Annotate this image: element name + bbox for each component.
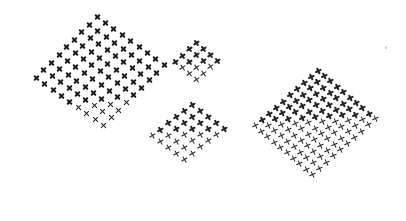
cross-mark-icon: [192, 50, 200, 58]
cross-mark-icon: [97, 68, 104, 75]
cross-mark-icon: [88, 48, 95, 55]
cross-mark-icon: [73, 77, 80, 84]
cross-mark-icon: [105, 74, 112, 81]
cross-mark-icon: [64, 58, 71, 65]
cross-mark-icon: [80, 56, 87, 63]
cross-mark-icon: [119, 32, 126, 39]
cross-mark-icon: [83, 110, 90, 117]
cross-mark-icon: [137, 71, 144, 78]
cross-mark-icon: [63, 44, 70, 51]
cross-mark-icon: [206, 62, 214, 70]
cross-mark-icon: [185, 44, 193, 52]
cross-mark-icon: [78, 29, 85, 36]
cross-mark-icon: [56, 65, 63, 72]
cross-mark-icon: [72, 64, 79, 71]
cross-mark-icon: [172, 125, 181, 134]
cross-mark-icon: [161, 62, 168, 69]
cross-mark-icon: [104, 47, 111, 54]
cross-mark-icon: [127, 38, 134, 45]
cross-mark-icon: [56, 52, 63, 59]
cross-mark-icon: [74, 91, 81, 98]
cross-mark-icon: [204, 136, 213, 145]
cross-mark-icon: [136, 57, 143, 64]
cross-mark-icon: [65, 71, 72, 78]
cross-mark-icon: [41, 80, 48, 87]
cross-mark-icon: [121, 72, 128, 79]
cross-mark-icon: [79, 42, 86, 49]
cross-mark-icon: [185, 69, 193, 77]
cross-mark-icon: [110, 26, 117, 33]
cross-mark-icon: [329, 151, 338, 160]
cross-mark-icon: [113, 66, 120, 73]
cross-mark-icon: [364, 120, 373, 129]
cross-mark-icon: [104, 60, 111, 67]
cross-mark-icon: [95, 41, 102, 48]
cross-mark-icon: [120, 45, 127, 52]
cross-mark-icon: [91, 103, 98, 110]
cross-mark-icon: [220, 124, 229, 133]
cross-mark-icon: [72, 50, 79, 57]
cross-mark-icon: [111, 39, 118, 46]
cross-mark-icon: [164, 143, 173, 152]
cross-mark-icon: [212, 130, 221, 139]
cross-mark-icon: [107, 101, 114, 108]
cross-mark-icon: [192, 75, 200, 83]
cross-mark-icon: [108, 115, 115, 122]
cross-mark-icon: [102, 20, 109, 27]
cross-mark-icon: [89, 76, 96, 83]
cross-mark-icon: [99, 109, 106, 116]
cross-mark-icon: [123, 100, 130, 107]
cross-mark-icon: [33, 74, 40, 81]
cross-mark-icon: [188, 124, 197, 133]
cross-mark-icon: [204, 124, 213, 133]
cross-mark-icon: [188, 137, 197, 146]
cross-mark-icon: [100, 122, 107, 129]
figure-canvas: [0, 0, 406, 221]
cross-mark-icon: [92, 116, 99, 123]
cross-mark-icon: [112, 53, 119, 60]
cross-mark-icon: [145, 63, 152, 70]
cross-mark-icon: [106, 88, 113, 95]
cross-mark-icon: [82, 97, 89, 104]
cross-mark-icon: [120, 59, 127, 66]
cross-mark-icon: [180, 106, 189, 115]
cross-mark-icon: [144, 50, 151, 57]
cross-mark-icon: [153, 69, 160, 76]
cross-mark-icon: [136, 44, 143, 51]
cross-mark-icon: [114, 80, 121, 87]
cross-mark-icon: [75, 104, 82, 111]
cross-mark-icon: [114, 94, 121, 101]
cross-mark-icon: [57, 79, 64, 86]
cross-mark-icon: [172, 149, 181, 158]
cross-mark-icon: [164, 119, 173, 128]
cross-mark-icon: [81, 70, 88, 77]
cross-mark-icon: [148, 131, 157, 140]
cross-mark-icon: [156, 137, 165, 146]
cross-mark-icon: [82, 83, 89, 90]
cross-mark-icon: [50, 86, 57, 93]
cross-mark-icon: [172, 112, 181, 121]
cross-mark-icon: [196, 130, 205, 139]
cross-mark-icon: [98, 82, 105, 89]
cross-mark-icon: [152, 56, 159, 63]
cross-mark-icon: [94, 27, 101, 34]
cross-mark-icon: [138, 84, 145, 91]
cross-mark-icon: [180, 118, 189, 127]
cross-mark-icon: [196, 143, 205, 152]
cross-mark-icon: [357, 127, 366, 136]
cross-mark-icon: [122, 86, 129, 93]
cross-mark-icon: [94, 14, 101, 21]
cross-mark-icon: [188, 112, 197, 121]
cross-mark-icon: [180, 155, 189, 164]
cross-mark-icon: [90, 89, 97, 96]
cross-mark-icon: [87, 35, 94, 42]
cross-mark-icon: [115, 107, 122, 114]
cross-mark-icon: [322, 158, 331, 167]
cross-mark-icon: [103, 33, 110, 40]
cross-mark-icon: [212, 118, 221, 127]
cross-mark-icon: [188, 100, 197, 109]
cross-mark-icon: [180, 131, 189, 140]
cross-mark-icon: [128, 51, 135, 58]
cross-mark-icon: [98, 95, 105, 102]
cross-mark-icon: [49, 73, 56, 80]
